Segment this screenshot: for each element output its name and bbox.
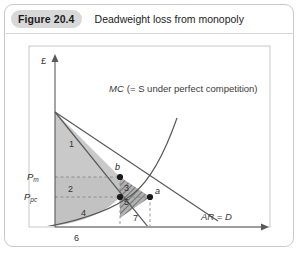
chart-area: £ Pm Ppc MC(= S under perfect competitio… xyxy=(5,34,295,247)
region-4-label: 4 xyxy=(81,208,86,218)
price-monopoly-subscript: m xyxy=(33,176,39,183)
point-a-marker xyxy=(147,194,153,200)
region-4-shape xyxy=(55,197,120,226)
region-6-label: 6 xyxy=(74,233,79,243)
figure-number-badge: Figure 20.4 xyxy=(11,10,82,28)
point-c-marker xyxy=(117,194,123,200)
mc-curve-label: MC(= S under perfect competition) xyxy=(109,83,257,94)
x-axis-arrow-icon xyxy=(261,224,269,231)
mc-curve-label-rest: (= S under perfect competition) xyxy=(127,83,258,94)
region-1-shape xyxy=(55,112,120,177)
point-a-label: a xyxy=(155,186,160,196)
region-5-label: 5 xyxy=(124,197,129,207)
region-1-label: 1 xyxy=(69,139,74,149)
figure-header: Figure 20.4 Deadweight loss from monopol… xyxy=(5,5,293,33)
region-2-label: 2 xyxy=(68,184,73,194)
mc-curve-label-main: MC xyxy=(109,83,124,94)
demand-curve-label: AR = D xyxy=(200,211,232,222)
y-axis-arrow-icon xyxy=(52,54,59,62)
region-3-label: 3 xyxy=(124,183,129,193)
price-competitive-label: Ppc xyxy=(24,191,38,204)
monopoly-deadweight-loss-diagram: £ Pm Ppc MC(= S under perfect competitio… xyxy=(5,34,295,247)
y-axis-label: £ xyxy=(41,55,47,66)
region-7-label: 7 xyxy=(133,213,138,223)
figure-title: Deadweight loss from monopoly xyxy=(95,13,244,25)
point-b-label: b xyxy=(115,162,120,172)
point-b-marker xyxy=(117,174,123,180)
price-monopoly-label: Pm xyxy=(27,171,39,183)
figure-card: Figure 20.4 Deadweight loss from monopol… xyxy=(4,4,294,247)
price-competitive-subscript: pc xyxy=(29,196,38,204)
